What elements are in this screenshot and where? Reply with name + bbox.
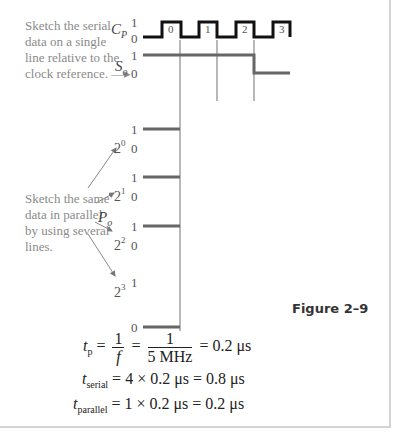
bit-label-2-0: 20 <box>114 138 126 157</box>
figure-2-9: Sketch the serial data on a single line … <box>0 0 403 441</box>
figure-caption: Figure 2–9 <box>292 301 368 316</box>
equation-period: tp = 1f = 15 MHz = 0.2 μs <box>83 330 251 365</box>
arrow-to-2-0 <box>88 148 116 188</box>
bit-0-high-level: 1 <box>131 122 138 138</box>
clock-pulse-label-2: 2 <box>242 23 248 35</box>
serial-high-level: 1 <box>131 48 138 64</box>
serial-low-level: 0 <box>131 66 138 82</box>
equation-parallel-time: tparallel = 1 × 0.2 μs = 0.2 μs <box>73 395 244 415</box>
bit-1-low-level: 0 <box>131 189 138 205</box>
clock-low-level: 0 <box>131 31 138 47</box>
fraction-1-over-5mhz: 15 MHz <box>148 330 193 365</box>
clock-pulse-label-1: 1 <box>205 23 211 35</box>
parallel-note-line: by using several <box>25 223 109 239</box>
bit-3-high-level: 1 <box>131 275 138 291</box>
clock-high-level: 1 <box>131 15 138 31</box>
bit-1-high-level: 1 <box>131 170 138 186</box>
bit-2-high-level: 1 <box>131 219 138 235</box>
parallel-note-line: data in parallel <box>25 207 109 223</box>
parallel-label: Po <box>98 209 112 228</box>
bit-label-2-2: 22 <box>114 235 126 254</box>
bit-2-low-level: 0 <box>131 238 138 254</box>
clock-pulse-label-0: 0 <box>168 23 174 35</box>
bit-0-low-level: 0 <box>131 141 138 157</box>
bit-label-2-1: 21 <box>114 186 126 205</box>
parallel-note: Sketch the same data in parallel by usin… <box>25 191 109 255</box>
fraction-1-over-f: 1f <box>112 330 124 365</box>
clock-pulse-label-3: 3 <box>279 23 285 35</box>
serial-label: So <box>115 58 128 77</box>
parallel-note-line: Sketch the same <box>25 191 109 207</box>
equation-serial-time: tserial = 4 × 0.2 μs = 0.8 μs <box>82 370 245 390</box>
parallel-note-line: lines. <box>25 239 109 255</box>
bit-label-2-3: 23 <box>114 282 126 301</box>
clock-label: CP <box>111 21 127 40</box>
clock-waveform <box>143 22 290 37</box>
